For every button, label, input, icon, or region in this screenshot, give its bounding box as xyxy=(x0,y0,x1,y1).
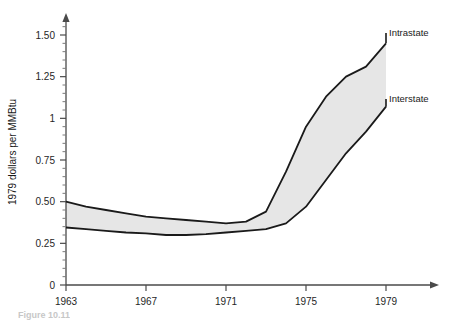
intrastate-interstate-band xyxy=(66,43,386,235)
y-tick-label: 0.75 xyxy=(36,155,56,166)
figure-container: 00.250.500.7511.251.50 19631967197119751… xyxy=(0,0,451,321)
y-tick-label: 1.50 xyxy=(36,30,56,41)
x-tick-label: 1963 xyxy=(55,296,78,307)
x-axis-arrow-head xyxy=(430,281,439,288)
x-tick-label: 1979 xyxy=(375,296,398,307)
y-axis-arrow-head xyxy=(62,13,69,22)
x-tick-label: 1967 xyxy=(135,296,158,307)
y-tick-label: 0.25 xyxy=(36,238,56,249)
y-tick-label: 1.25 xyxy=(36,71,56,82)
y-axis-title: 1979 dollars per MMBtu xyxy=(7,99,18,205)
interstate-series-label: Interstate xyxy=(389,93,429,104)
x-tick-label: 1975 xyxy=(295,296,318,307)
y-tick-label: 0 xyxy=(49,280,55,291)
figure-caption: Figure 10.11 xyxy=(18,309,70,321)
x-tick-label: 1971 xyxy=(215,296,238,307)
y-tick-label: 0.50 xyxy=(36,196,56,207)
y-axis: 00.250.500.7511.251.50 xyxy=(36,13,70,291)
intrastate-series-label: Intrastate xyxy=(389,27,429,38)
gas-price-area-chart: 00.250.500.7511.251.50 19631967197119751… xyxy=(0,0,451,321)
x-axis: 19631967197119751979 xyxy=(55,281,439,307)
y-tick-label: 1 xyxy=(49,113,55,124)
